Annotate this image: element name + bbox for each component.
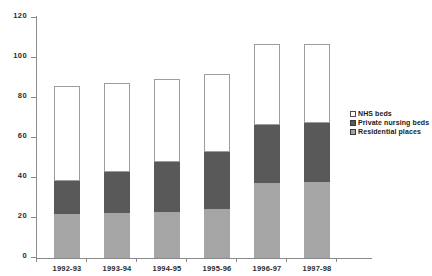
dark-gray-square-swatch-icon bbox=[350, 120, 356, 126]
bar-segment-residential-places bbox=[204, 209, 230, 258]
bar-segment-private-nursing-beds bbox=[304, 123, 330, 182]
legend-label: Private nursing beds bbox=[358, 119, 429, 126]
legend-label: Residential places bbox=[358, 128, 421, 135]
x-axis-tick-label: 1995-96 bbox=[196, 264, 238, 273]
bar-segment-residential-places bbox=[54, 214, 80, 258]
bar-segment-private-nursing-beds bbox=[154, 162, 180, 212]
bar-segment-residential-places bbox=[254, 183, 280, 258]
y-axis-tick: 60 bbox=[31, 137, 36, 138]
legend-item-private-nursing-beds: Private nursing beds bbox=[350, 119, 432, 126]
legend-label: NHS beds bbox=[358, 110, 392, 117]
y-axis-tick: 20 bbox=[31, 217, 36, 218]
x-axis-tick bbox=[236, 258, 237, 262]
bar-segment-residential-places bbox=[104, 213, 130, 258]
x-axis-tick bbox=[336, 258, 337, 262]
bar-segment-nhs-beds bbox=[304, 44, 330, 123]
y-axis-tick-label: 100 bbox=[13, 51, 27, 60]
y-axis-tick-label: 40 bbox=[18, 171, 27, 180]
stacked-bar-chart: 020406080100120 1992-931993-941994-95199… bbox=[0, 0, 432, 276]
bar-segment-residential-places bbox=[154, 212, 180, 258]
legend-item-nhs-beds: NHS beds bbox=[350, 110, 432, 117]
y-axis-tick-label: 120 bbox=[13, 11, 27, 20]
y-axis-tick: 80 bbox=[31, 97, 36, 98]
plot-area: 020406080100120 bbox=[36, 18, 336, 258]
x-axis-tick bbox=[286, 258, 287, 262]
bar-segment-nhs-beds bbox=[254, 44, 280, 125]
legend-item-residential-places: Residential places bbox=[350, 128, 432, 135]
bar-segment-nhs-beds bbox=[154, 79, 180, 162]
x-axis-tick bbox=[186, 258, 187, 262]
x-axis-tick bbox=[36, 258, 37, 262]
x-axis-tick bbox=[136, 258, 137, 262]
x-axis-tick-label: 1994-95 bbox=[146, 264, 188, 273]
y-axis-tick-label: 20 bbox=[18, 211, 27, 220]
x-axis-tick bbox=[86, 258, 87, 262]
bar-segment-private-nursing-beds bbox=[254, 125, 280, 183]
bar-segment-nhs-beds bbox=[54, 86, 80, 181]
x-axis-tick-label: 1992-93 bbox=[46, 264, 88, 273]
chart-legend: NHS beds Private nursing beds Residentia… bbox=[350, 110, 432, 137]
bar-segment-nhs-beds bbox=[104, 83, 130, 172]
x-axis-tick-label: 1997-98 bbox=[296, 264, 338, 273]
y-axis-tick-label: 80 bbox=[18, 91, 27, 100]
x-axis-tick-label: 1996-97 bbox=[246, 264, 288, 273]
bar-segment-residential-places bbox=[304, 182, 330, 258]
bar-segment-private-nursing-beds bbox=[204, 152, 230, 209]
y-axis-tick: 100 bbox=[31, 57, 36, 58]
medium-gray-square-swatch-icon bbox=[350, 129, 356, 135]
y-axis-tick: 120 bbox=[31, 17, 36, 18]
y-axis-tick-label: 0 bbox=[22, 251, 27, 260]
bar-segment-nhs-beds bbox=[204, 74, 230, 152]
bar-segment-private-nursing-beds bbox=[104, 172, 130, 213]
white-square-swatch-icon bbox=[350, 111, 356, 117]
bar-segment-private-nursing-beds bbox=[54, 181, 80, 214]
y-axis-tick: 40 bbox=[31, 177, 36, 178]
y-axis-tick-label: 60 bbox=[18, 131, 27, 140]
x-axis-tick-label: 1993-94 bbox=[96, 264, 138, 273]
